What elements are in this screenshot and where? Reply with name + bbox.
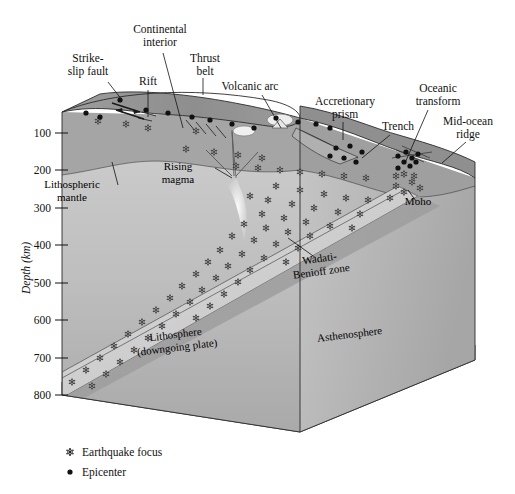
epicenter: [251, 125, 256, 130]
epicenter: [395, 165, 400, 170]
earthquake-focus-icon-core: [69, 451, 72, 454]
epicenter: [359, 149, 364, 154]
epicenter: [341, 155, 346, 160]
epicenter: [229, 121, 234, 126]
legend: Earthquake focusEpicenter: [67, 446, 163, 479]
epicenter: [403, 149, 408, 154]
epicenter: [189, 114, 194, 119]
callout-label-mid-ocean-ridge: Mid-oceanridge: [443, 115, 493, 141]
depth-tick-label: 600: [34, 314, 52, 326]
callout-label-strike-slip-fault: Strike-slip fault: [68, 52, 109, 78]
epicenter: [313, 121, 318, 126]
epicenter: [295, 119, 300, 124]
depth-tick-label: 300: [34, 202, 52, 214]
depth-tick-label: 400: [34, 239, 52, 251]
callout-label-oceanic-transform: Oceanictransform: [416, 82, 461, 107]
depth-axis-title: Depth (km): [20, 242, 33, 295]
interior-label-rising-magma: Risingmagma: [162, 160, 194, 185]
epicenter: [395, 153, 400, 158]
epicenter: [327, 125, 332, 130]
epicenter: [409, 155, 414, 160]
legend-label-epicenter: Epicenter: [82, 466, 126, 479]
interior-label-moho: Moho: [405, 195, 432, 207]
callout-label-trench: Trench: [382, 120, 414, 132]
epicenter: [83, 110, 88, 115]
callout-label-thrust-belt: Thrustbelt: [190, 52, 221, 77]
block-body: [62, 92, 475, 432]
figure-canvas: 100200300400500600700800 Depth (km) Stri…: [0, 0, 515, 494]
callout-label-rift: Rift: [139, 75, 158, 87]
epicenter-icon: [67, 469, 72, 474]
depth-tick-label: 500: [34, 277, 52, 289]
callout-mid-ocean-ridge: Mid-oceanridge: [442, 115, 493, 163]
legend-item-earthquake-focus: Earthquake focus: [67, 446, 163, 459]
epicenter: [347, 143, 352, 148]
epicenter: [353, 159, 358, 164]
epicenter: [165, 110, 170, 115]
epicenter: [407, 163, 412, 168]
depth-tick-label: 800: [34, 389, 52, 401]
epicenter: [415, 151, 420, 156]
epicenter: [327, 153, 332, 158]
depth-tick-label: 700: [34, 352, 52, 364]
callout-thrust-belt: Thrustbelt: [190, 52, 221, 95]
callout-label-volcanic-arc: Volcanic arc: [222, 80, 279, 92]
block-diagram-svg: 100200300400500600700800 Depth (km) Stri…: [0, 0, 515, 494]
epicenter: [413, 159, 418, 164]
legend-item-epicenter: Epicenter: [67, 466, 126, 479]
depth-tick-label: 100: [34, 127, 52, 139]
callout-label-continental-interior: Continentalinterior: [133, 23, 187, 48]
epicenter: [207, 117, 212, 122]
epicenter: [333, 145, 338, 150]
legend-label-earthquake-focus: Earthquake focus: [82, 446, 163, 459]
epicenter: [97, 114, 102, 119]
depth-tick-label: 200: [34, 164, 52, 176]
